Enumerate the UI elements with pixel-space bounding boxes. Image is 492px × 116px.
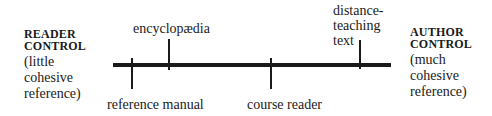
- reader-control-pole: READER CONTROL (little cohesive referenc…: [24, 28, 86, 102]
- tick-encyclopaedia: [168, 39, 170, 70]
- label-encyclopaedia: encyclopædia: [133, 21, 210, 36]
- reader-control-sub-2: cohesive: [24, 70, 86, 86]
- author-control-pole: AUTHOR CONTROL (much cohesive reference): [410, 26, 472, 100]
- label-distance-teaching-line-3: text: [333, 33, 384, 48]
- label-distance-teaching-line-1: distance-: [333, 3, 384, 18]
- tick-reference-manual: [131, 58, 133, 89]
- reader-control-sub-3: reference): [24, 86, 86, 102]
- tick-course-reader: [270, 58, 272, 89]
- author-control-sub-1: (much: [410, 52, 472, 68]
- author-control-sub-3: reference): [410, 84, 472, 100]
- label-distance-teaching-text: distance- teaching text: [333, 3, 384, 48]
- label-distance-teaching-line-2: teaching: [333, 18, 384, 33]
- reader-control-title-2: CONTROL: [24, 40, 86, 52]
- label-reference-manual: reference manual: [107, 97, 204, 112]
- author-control-sub-2: cohesive: [410, 68, 472, 84]
- continuum-axis-line: [113, 63, 391, 67]
- label-course-reader: course reader: [247, 97, 322, 112]
- author-control-title-2: CONTROL: [410, 38, 472, 50]
- reader-control-sub-1: (little: [24, 54, 86, 70]
